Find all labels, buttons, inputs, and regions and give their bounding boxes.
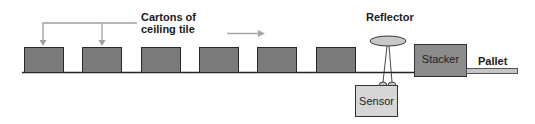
carton — [25, 48, 64, 73]
reflector-label: Reflector — [366, 11, 414, 23]
sensor-receiver — [388, 82, 396, 86]
stacker-label: Stacker — [414, 53, 467, 65]
carton — [142, 48, 181, 73]
cartons-label-line1: Cartons of — [141, 11, 196, 23]
cartons — [25, 48, 356, 73]
carton — [200, 48, 239, 73]
pallet-bar — [467, 69, 518, 74]
cartons-label-line2: ceiling tile — [141, 23, 196, 35]
pallet-label: Pallet — [478, 55, 507, 67]
reflector — [370, 36, 406, 46]
carton — [83, 48, 122, 73]
carton — [258, 48, 297, 73]
callout-arrowheads — [40, 40, 106, 46]
sensor-label: Sensor — [355, 95, 398, 107]
sensor-beams — [383, 46, 392, 82]
carton — [317, 48, 356, 73]
cartons-callout — [43, 23, 137, 42]
cartons-label: Cartons of ceiling tile — [141, 11, 196, 35]
sensor-emitter — [379, 82, 387, 86]
flow-direction-arrow-icon — [227, 30, 265, 37]
